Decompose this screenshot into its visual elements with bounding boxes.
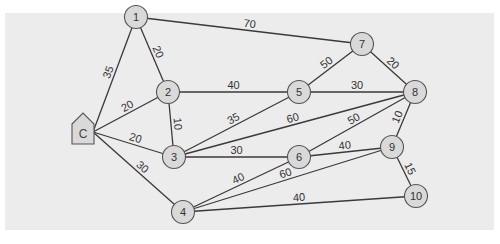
node-label: 8 [412, 86, 418, 98]
node-label: 3 [171, 151, 177, 163]
node-label: 10 [410, 190, 422, 202]
edge-weight-label: 70 [243, 17, 257, 30]
edge-weight-label: 40 [338, 138, 351, 151]
node-label: 4 [180, 206, 186, 218]
node-label: 7 [359, 38, 365, 50]
home-node-label: C [79, 127, 88, 141]
edge-weight-label: 40 [227, 79, 239, 91]
node-label: 5 [296, 86, 302, 98]
node-label: 9 [389, 141, 395, 153]
edge-C-1 [93, 17, 136, 132]
node-label: 6 [296, 151, 302, 163]
edge-weight-label: 30 [230, 144, 242, 156]
edge-weight-label: 30 [351, 79, 363, 91]
edge-weight-label: 30 [134, 158, 151, 175]
edge-weight-label: 20 [119, 98, 135, 114]
edge-4-6 [183, 157, 299, 212]
edge-weight-label: 10 [171, 117, 184, 130]
network-diagram: 3520203020704010356030503020504010406040… [0, 0, 500, 244]
edge-weight-label: 35 [225, 110, 241, 126]
edge-C-2 [93, 92, 168, 132]
edge-weight-label: 50 [345, 110, 362, 126]
node-label: 2 [165, 86, 171, 98]
edge-weight-label: 40 [293, 191, 306, 204]
edge-weight-label: 50 [318, 54, 335, 71]
node-label: 1 [133, 11, 139, 23]
edge-weight-label: 20 [385, 54, 402, 71]
